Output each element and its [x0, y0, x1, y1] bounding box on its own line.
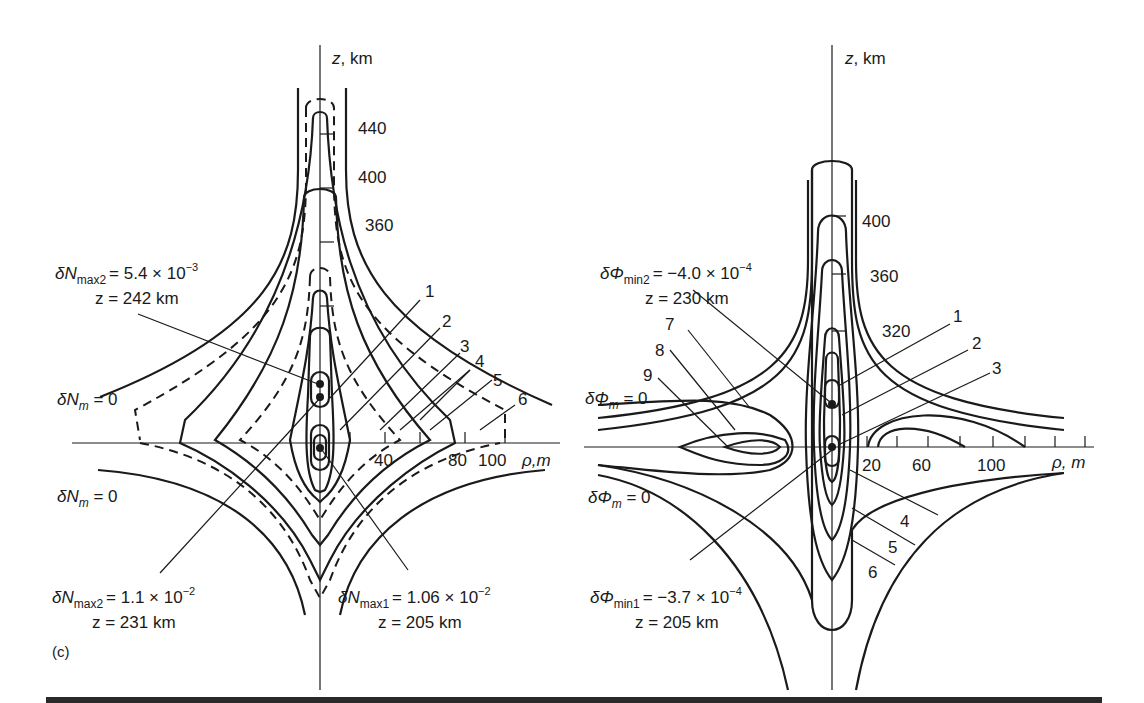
z-tick-label: 440 — [358, 119, 386, 138]
leader-line — [688, 330, 750, 408]
max-point — [316, 393, 324, 401]
contour-label: 3 — [460, 337, 469, 356]
right-panel: z, km 400 360 320 20 60 100 ρ, m — [584, 45, 1094, 690]
contour-label: 2 — [972, 334, 981, 353]
zero-label: δNm = 0 — [57, 390, 118, 413]
annotation-max2-lower-z: z = 231 km — [92, 613, 176, 632]
contour-label: 5 — [888, 538, 897, 557]
contour-label: 6 — [518, 390, 527, 409]
bottom-rule — [46, 697, 1102, 703]
rho-tick-label: 60 — [912, 456, 931, 475]
zero-label: δNm = 0 — [57, 487, 118, 510]
annotation-min1: δΦmin1= −3.7 × 10−4 — [590, 585, 742, 611]
leader-line — [658, 378, 728, 447]
leader-line — [842, 350, 968, 415]
annotation-max2-upper-z: z = 242 km — [95, 289, 179, 308]
annotation-max1: δNmax1= 1.06 × 10−2 — [338, 585, 491, 611]
annotation-min1-z: z = 205 km — [635, 613, 719, 632]
contour-label: 8 — [655, 341, 664, 360]
contour-label: 9 — [643, 366, 652, 385]
contour-line — [598, 475, 788, 690]
contour-label: 4 — [475, 352, 484, 371]
contour-line — [100, 88, 298, 397]
annotation-max2-lower: δNmax2= 1.1 × 10−2 — [52, 585, 195, 611]
zero-label: δΦm = 0 — [585, 389, 648, 412]
annotation-min2-z: z = 230 km — [645, 289, 729, 308]
contour-label: 5 — [493, 371, 502, 390]
z-tick-label: 360 — [365, 216, 393, 235]
leader-line — [690, 450, 832, 560]
contour-line — [878, 429, 965, 447]
rho-tick-label: 40 — [374, 451, 393, 470]
z-tick-label: 400 — [862, 212, 890, 231]
rho-axis-label-left: ρ,m — [521, 451, 551, 470]
leader-line — [420, 370, 470, 420]
contour-label: 3 — [992, 359, 1001, 378]
contour-label: 7 — [665, 315, 674, 334]
z-axis-label-left: z, km — [331, 49, 373, 68]
contour-label: 4 — [900, 512, 909, 531]
leader-line — [838, 373, 990, 445]
figure-label: (c) — [52, 643, 70, 660]
leader-line — [430, 380, 492, 430]
annotation-min2: δΦmin2= −4.0 × 10−4 — [600, 261, 752, 287]
min-point — [828, 443, 836, 451]
contour-label: 6 — [868, 563, 877, 582]
rho-tick-label: 100 — [478, 451, 506, 470]
contour-label: 1 — [425, 282, 434, 301]
contour-label: 2 — [442, 312, 451, 331]
rho-tick-label: 100 — [977, 456, 1005, 475]
z-tick-label: 320 — [882, 322, 910, 341]
z-tick-label: 360 — [870, 267, 898, 286]
rho-tick-label: 20 — [862, 456, 881, 475]
annotation-max1-z: z = 205 km — [378, 613, 462, 632]
rho-axis-label-right: ρ, m — [1051, 453, 1085, 472]
z-axis-label-right: z, km — [844, 49, 886, 68]
leader-line — [480, 405, 515, 430]
zero-label: δΦm = 0 — [588, 488, 651, 511]
contour-line-dashed — [306, 99, 505, 440]
annotation-max2-upper: δNmax2= 5.4 × 10−3 — [55, 261, 198, 287]
contour-label: 1 — [953, 307, 962, 326]
z-tick-label: 400 — [358, 168, 386, 187]
left-panel: z, km 440 400 360 40 80 100 ρ,m — [52, 45, 560, 690]
contour-line — [598, 401, 793, 475]
